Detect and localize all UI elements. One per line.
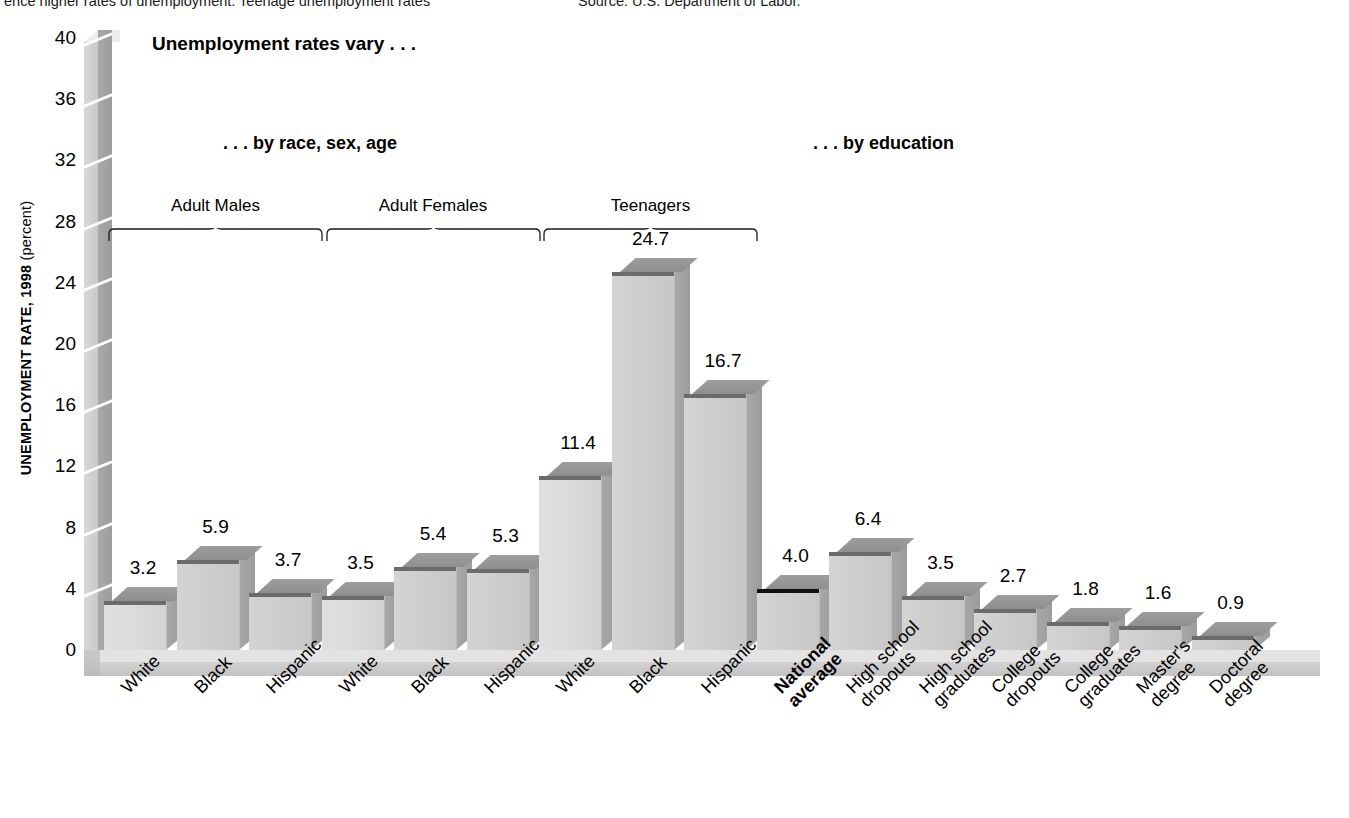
- bar-cap-line: [612, 272, 674, 276]
- bar-cap-line: [1047, 622, 1109, 626]
- subhead-left: . . . by race, sex, age: [223, 133, 397, 154]
- bar: [249, 579, 311, 650]
- bar-value-label: 16.7: [705, 350, 742, 372]
- group-label: Adult Females: [379, 196, 488, 216]
- bar-value-label: 5.9: [202, 516, 228, 538]
- bar-cap-line: [177, 560, 239, 564]
- bar-cap-line: [322, 596, 384, 600]
- bar-cap-line: [249, 593, 311, 597]
- bar-value-label: 1.8: [1072, 578, 1098, 600]
- bar-front-face: [539, 476, 602, 650]
- bar-cap-line: [902, 596, 964, 600]
- bar-cap-line: [757, 589, 819, 593]
- bar-cap-line: [829, 552, 891, 556]
- group-bracket: [543, 228, 758, 242]
- bar-value-label: 3.2: [130, 557, 156, 579]
- bar-cap-line: [467, 569, 529, 573]
- bar: [829, 538, 891, 650]
- bar-cap-line: [974, 609, 1036, 613]
- bar-value-label: 5.3: [492, 525, 518, 547]
- bar-front-face: [612, 272, 675, 650]
- bar-value-label: 3.7: [275, 549, 301, 571]
- bar-front-face: [684, 394, 747, 650]
- bar-front-face: [394, 567, 457, 650]
- bar: [104, 587, 166, 650]
- bar-cap-line: [394, 567, 456, 571]
- bar: [684, 380, 746, 650]
- bar: [177, 546, 239, 650]
- bar-value-label: 3.5: [927, 552, 953, 574]
- group-label: Teenagers: [611, 196, 690, 216]
- bar-front-face: [829, 552, 892, 650]
- bar: [322, 582, 384, 650]
- bar-value-label: 11.4: [560, 432, 596, 454]
- chart-headline: Unemployment rates vary . . .: [152, 33, 416, 55]
- bar-value-label: 1.6: [1145, 582, 1171, 604]
- group-label: Adult Males: [171, 196, 260, 216]
- bar-front-face: [104, 601, 167, 650]
- bar-cap-line: [539, 476, 601, 480]
- subhead-right: . . . by education: [813, 133, 954, 154]
- bar-front-face: [467, 569, 530, 650]
- bar: [539, 462, 601, 650]
- bar-cap-line: [1119, 626, 1181, 630]
- bar-front-face: [757, 589, 820, 650]
- bar: [612, 258, 674, 650]
- bar-value-label: 2.7: [1000, 565, 1026, 587]
- bar-cap-line: [104, 601, 166, 605]
- bar: [394, 553, 456, 650]
- bar-value-label: 0.9: [1217, 592, 1243, 614]
- bar-cap-line: [1192, 636, 1254, 640]
- unemployment-bar-chart: UNEMPLOYMENT RATE, 1998 (percent) 048121…: [0, 0, 1349, 818]
- bar-cap-line: [684, 394, 746, 398]
- group-bracket: [326, 228, 541, 242]
- bar-value-label: 6.4: [855, 508, 881, 530]
- bar-value-label: 3.5: [347, 552, 373, 574]
- bar: [467, 555, 529, 650]
- bar: [757, 575, 819, 650]
- bar-front-face: [177, 560, 240, 650]
- bar-front-face: [322, 596, 385, 650]
- bar-value-label: 5.4: [420, 523, 446, 545]
- group-bracket: [108, 228, 323, 242]
- bar-value-label: 4.0: [782, 545, 808, 567]
